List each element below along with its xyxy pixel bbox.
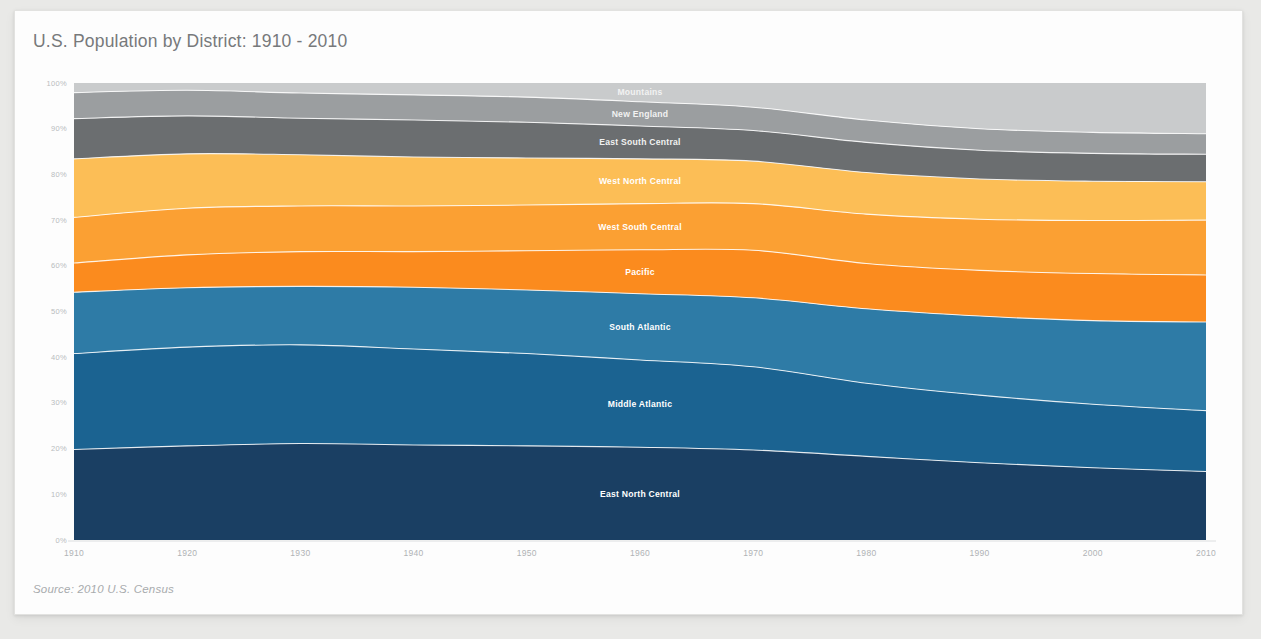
series-label-middle-atlantic: Middle Atlantic [608, 399, 673, 409]
series-label-east-south-central: East South Central [599, 137, 680, 147]
y-axis-ticks-group: 0%10%20%30%40%50%60%70%80%90%100% [47, 79, 67, 545]
y-axis-tick-label: 80% [51, 170, 67, 179]
x-axis-tick-label: 2000 [1083, 548, 1103, 558]
x-axis-tick-label: 1970 [743, 548, 763, 558]
y-axis-tick-label: 20% [51, 444, 67, 453]
x-axis-tick-label: 1980 [856, 548, 876, 558]
x-axis-tick-label: 1930 [290, 548, 310, 558]
stacked-area-chart: 0%10%20%30%40%50%60%70%80%90%100% 191019… [15, 11, 1244, 616]
y-axis-tick-label: 60% [51, 261, 67, 270]
series-label-south-atlantic: South Atlantic [609, 322, 670, 332]
y-axis-tick-label: 70% [51, 216, 67, 225]
series-label-east-north-central: East North Central [600, 489, 680, 499]
x-axis-ticks-group: 1910192019301940195019601970198019902000… [64, 548, 1216, 558]
series-label-west-south-central: West South Central [598, 222, 682, 232]
area-bands-group [74, 83, 1206, 540]
y-axis-tick-label: 10% [51, 490, 67, 499]
source-note: Source: 2010 U.S. Census [33, 583, 174, 595]
x-axis-tick-label: 1990 [970, 548, 990, 558]
series-label-west-north-central: West North Central [599, 176, 681, 186]
y-axis-tick-label: 100% [47, 79, 67, 88]
x-axis-tick-label: 1940 [404, 548, 424, 558]
series-label-pacific: Pacific [625, 267, 654, 277]
series-label-mountains: Mountains [617, 87, 662, 97]
chart-card: U.S. Population by District: 1910 - 2010… [14, 10, 1243, 615]
y-axis-tick-label: 0% [56, 536, 67, 545]
y-axis-tick-label: 90% [51, 124, 67, 133]
x-axis-tick-label: 1960 [630, 548, 650, 558]
y-axis-tick-label: 40% [51, 353, 67, 362]
x-axis-tick-label: 1950 [517, 548, 537, 558]
x-axis-tick-label: 1910 [64, 548, 84, 558]
series-label-new-england: New England [612, 109, 669, 119]
x-axis-tick-label: 1920 [177, 548, 197, 558]
chart-canvas: 0%10%20%30%40%50%60%70%80%90%100% 191019… [15, 11, 1244, 616]
x-axis-tick-label: 2010 [1196, 548, 1216, 558]
y-axis-tick-label: 30% [51, 398, 67, 407]
y-axis-tick-label: 50% [51, 307, 67, 316]
